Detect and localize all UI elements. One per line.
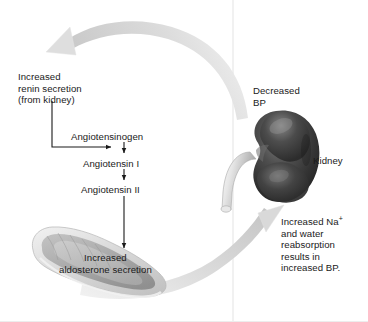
kidney-illustration	[221, 110, 319, 212]
sodium-superscript-plus: +	[339, 215, 343, 222]
sodium-text-rest: and water reabsorption results in increa…	[281, 228, 340, 274]
label-angiotensin-2: Angiotensin II	[81, 184, 140, 196]
diagram-canvas: Increased renin secretion (from kidney) …	[0, 0, 368, 322]
label-increased-aldosterone-secretion: Increased aldosterone secretion	[59, 252, 152, 275]
label-decreased-bp: Decreased BP	[253, 85, 300, 108]
sodium-text-prefix: Increased Na	[281, 216, 339, 227]
label-increased-sodium-water-reabsorption: Increased Na+ and water reabsorption res…	[281, 216, 343, 274]
label-angiotensinogen: Angiotensinogen	[71, 131, 143, 143]
label-kidney: Kidney	[313, 155, 343, 167]
label-angiotensin-1: Angiotensin I	[83, 158, 139, 170]
cascade-arrows	[52, 101, 124, 248]
label-increased-renin-secretion: Increased renin secretion (from kidney)	[18, 71, 82, 106]
